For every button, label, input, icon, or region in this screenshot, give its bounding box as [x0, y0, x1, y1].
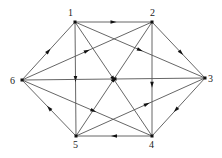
directed-graph: 123456 [0, 0, 222, 158]
arrowhead-1-to-2-icon [111, 20, 117, 24]
node-label-5: 5 [73, 139, 78, 150]
node-label-3: 3 [208, 73, 213, 84]
arrowhead-1-to-3-icon [137, 47, 144, 53]
arrowhead-6-to-2-icon [84, 48, 91, 54]
node-1 [74, 21, 77, 24]
node-4 [151, 135, 154, 138]
arrowhead-5-to-3-icon [143, 101, 150, 107]
node-label-4: 4 [149, 139, 154, 150]
edge-2-to-3 [152, 22, 205, 78]
arrowhead-2-to-4-icon [150, 82, 154, 88]
node-2 [151, 21, 154, 24]
arrowhead-4-to-5-icon [111, 134, 117, 138]
edge-3-to-4 [152, 78, 205, 136]
edges-layer [22, 20, 205, 138]
node-label-6: 6 [10, 75, 15, 86]
node-5 [75, 135, 78, 138]
edge-6-to-4 [22, 80, 152, 136]
node-label-1: 1 [68, 7, 73, 18]
node-3 [204, 77, 207, 80]
node-label-2: 2 [150, 7, 155, 18]
node-6 [21, 79, 24, 82]
